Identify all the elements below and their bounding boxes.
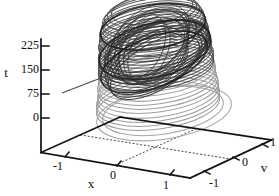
plot-canvas: 225 150 75 0 t -1 0 1 x -1 0 1 v: [0, 0, 279, 196]
t-tick-label-150: 150: [21, 62, 39, 76]
x-tick-label-0: 0: [110, 168, 116, 182]
x-tick-label-neg1: -1: [53, 159, 63, 173]
t-tick-label-75: 75: [27, 86, 39, 100]
t-tick-label-0: 0: [33, 110, 39, 124]
x-tick-label-1: 1: [163, 178, 169, 192]
x-axis-title: x: [88, 176, 95, 191]
t-tick-label-225: 225: [21, 38, 39, 52]
v-tick-1: [262, 144, 268, 147]
plot-figure: 225 150 75 0 t -1 0 1 x -1 0 1 v: [0, 0, 279, 196]
v-tick-label-0: 0: [242, 155, 248, 169]
t-axis-title: t: [4, 65, 8, 80]
v-tick-label-1: 1: [270, 135, 276, 149]
v-axis-title: v: [261, 160, 268, 175]
v-tick-label-neg1: -1: [209, 176, 219, 190]
base-plane-grid: [81, 129, 231, 165]
v-tick-neg1: [204, 171, 210, 174]
